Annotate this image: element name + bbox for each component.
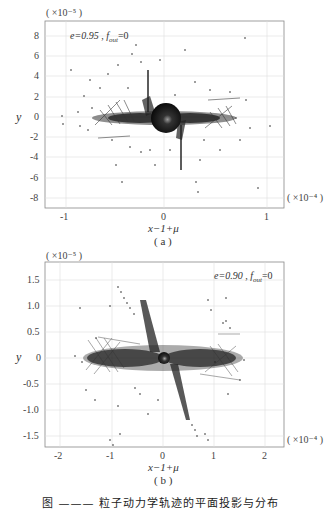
panel-a-ytick: 8 [34,30,39,41]
panel-b-ytick: -1.5 [23,430,39,441]
panel-a-xtick: 0 [161,211,166,222]
central-body-sphere-a [151,103,181,133]
panel-a-annot-sub: out [109,36,118,44]
panel-b-ytick: -1.0 [23,404,39,415]
panel-a-annotation: e=0.95 , fout=0 [70,30,129,44]
panel-b-ytick: 1.0 [27,300,40,311]
panel-b-xtick: 2 [262,450,267,461]
panel-b-plot [45,262,284,447]
panel-b-annot-e: e=0.90 , [214,270,250,281]
panel-a-ytick: -4 [30,151,38,162]
panel-b-ytick: 1.5 [27,274,40,285]
panel-a-annot-eq: =0 [118,30,129,41]
panel-b-xtick: -2 [54,450,62,461]
panel-a-y-axis-label: y [16,110,21,125]
panel-b-annotation: e=0.90 , fout=0 [214,270,273,284]
panel-a-y-scale-label: ( ×10⁻⁵ ) [46,7,82,18]
panel-a-plot [45,21,284,208]
panel-a-x-scale-label: ( ×10⁻⁴ ) [287,192,323,203]
panel-b-y-axis-label: y [16,350,21,365]
panel-a-ytick: -8 [30,192,38,203]
panel-b-ytick: 0.5 [27,326,40,337]
panel-b-annot-sub: out [253,276,262,284]
panel-b-xtick: 0 [160,450,165,461]
panel-a-xtick: 1 [264,211,269,222]
panel-b-ytick: -0.5 [23,378,39,389]
panel-b-x-axis-label: x−1+μ [148,461,179,473]
panel-a-annot-e: e=0.95 , [70,30,106,41]
panel-b-subfigure-label: ( b ) [154,474,172,486]
panel-a-x-axis-label: x−1+μ [148,222,179,234]
panel-a-ytick: 0 [34,111,39,122]
panel-b-xtick: 1 [211,450,216,461]
panel-b-x-scale-label: ( ×10⁻⁴ ) [287,434,323,445]
panel-b-annot-eq: =0 [262,270,273,281]
panel-a-ytick: -2 [30,131,38,142]
panel-a-ytick: 6 [34,50,39,61]
panel-a-ytick: -6 [30,172,38,183]
central-body-sphere-b [158,352,170,364]
figure-caption: 图 ——— 粒子动力学轨迹的平面投影与分布 [42,494,279,510]
panel-a-ytick: 2 [34,91,39,102]
panel-b-xtick: -1 [106,450,114,461]
panel-b-ytick: 0 [36,352,41,363]
panel-a-xtick: -1 [60,211,68,222]
panel-a-ytick: 4 [34,70,39,81]
panel-a-subfigure-label: ( a ) [154,235,172,247]
panel-b-y-scale-label: ( ×10⁻⁵ ) [46,250,82,261]
